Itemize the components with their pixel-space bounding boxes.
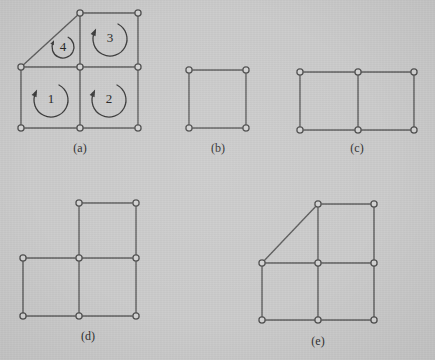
a-v-mid-left: [18, 64, 24, 70]
caption-e: (e): [311, 334, 324, 348]
e-v-mid-left: [259, 260, 265, 266]
c-v-bottom-center: [355, 127, 361, 133]
a-v-top-right: [135, 10, 141, 16]
d-v-top-right: [133, 200, 139, 206]
d-v-bottom-center: [76, 313, 82, 319]
face-label-3: 3: [107, 30, 114, 45]
b-v-top-right: [243, 67, 249, 73]
a-v-bottom-left: [18, 125, 24, 131]
e-v-top-right: [371, 201, 377, 207]
d-v-top-center: [76, 200, 82, 206]
d-v-mid-left: [20, 255, 26, 261]
face-label-4: 4: [60, 39, 67, 54]
e-v-top-center: [315, 201, 321, 207]
d-v-bottom-right: [133, 313, 139, 319]
b-v-bottom-right: [243, 125, 249, 131]
a-v-bottom-right: [135, 125, 141, 131]
a-v-bottom-center: [77, 125, 83, 131]
c-v-top-left: [297, 69, 303, 75]
b-v-top-left: [186, 67, 192, 73]
e-v-bottom-center: [315, 317, 321, 323]
a-v-top-left: [77, 10, 83, 16]
figure-background: [0, 0, 435, 360]
d-v-mid-center: [76, 255, 82, 261]
figure-canvas: 1234(a)(b)(c)(d)(e): [0, 0, 435, 360]
c-v-bottom-left: [297, 127, 303, 133]
caption-a: (a): [73, 141, 86, 155]
a-v-mid-right: [135, 64, 141, 70]
e-v-bottom-left: [259, 317, 265, 323]
e-v-mid-center: [315, 260, 321, 266]
face-label-2: 2: [106, 91, 113, 106]
c-v-top-right: [411, 69, 417, 75]
face-label-1: 1: [48, 91, 55, 106]
caption-b: (b): [211, 141, 225, 155]
b-v-bottom-left: [186, 125, 192, 131]
a-v-mid-center: [77, 64, 83, 70]
caption-d: (d): [81, 329, 95, 343]
e-v-bottom-right: [371, 317, 377, 323]
d-v-bottom-left: [20, 313, 26, 319]
c-v-top-center: [355, 69, 361, 75]
c-v-bottom-right: [411, 127, 417, 133]
d-v-mid-right: [133, 255, 139, 261]
caption-c: (c): [350, 141, 363, 155]
e-v-mid-right: [371, 260, 377, 266]
